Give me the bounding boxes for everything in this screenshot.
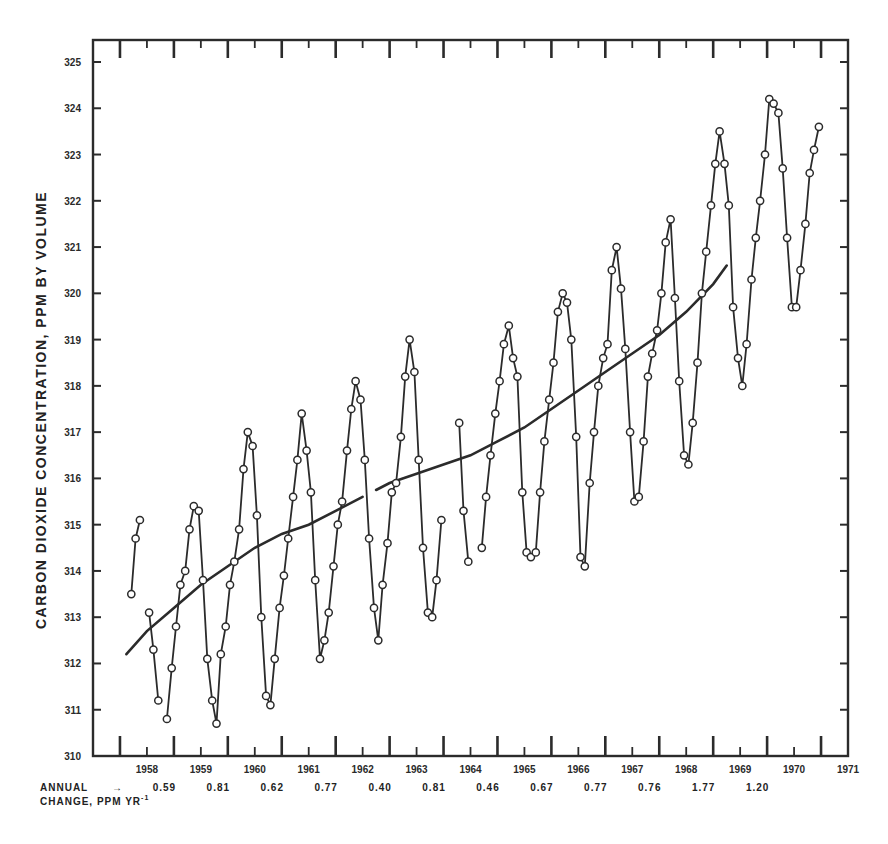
- data-point: [253, 512, 260, 519]
- data-point: [500, 341, 507, 348]
- x-tick-label: 1959: [190, 764, 213, 775]
- annual-change-value: 0.46: [476, 782, 499, 793]
- data-point: [217, 651, 224, 658]
- data-point: [703, 248, 710, 255]
- data-point: [604, 341, 611, 348]
- data-point: [716, 128, 723, 135]
- data-point: [640, 438, 647, 445]
- data-point: [613, 244, 620, 251]
- data-point: [433, 577, 440, 584]
- data-point: [330, 563, 337, 570]
- data-point: [532, 549, 539, 556]
- y-tick-label: 316: [64, 473, 81, 484]
- series-line-segment: [482, 99, 819, 566]
- data-point: [186, 526, 193, 533]
- data-point: [343, 447, 350, 454]
- data-point: [406, 336, 413, 343]
- data-point: [415, 456, 422, 463]
- annual-change-value: 1.77: [692, 782, 715, 793]
- x-tick-label: 1969: [729, 764, 752, 775]
- data-point: [654, 327, 661, 334]
- data-point: [492, 410, 499, 417]
- data-point: [298, 410, 305, 417]
- data-point: [280, 572, 287, 579]
- x-tick-label: 1961: [298, 764, 321, 775]
- x-tick-label: 1962: [352, 764, 375, 775]
- data-point: [411, 368, 418, 375]
- annual-change-arrow-icon: →: [112, 782, 123, 793]
- data-point: [155, 697, 162, 704]
- data-point: [199, 577, 206, 584]
- y-tick-label: 320: [64, 288, 81, 299]
- data-point: [559, 290, 566, 297]
- annual-change-value: 0.62: [261, 782, 284, 793]
- annual-change-row: ANNUAL CHANGE, PPM YR-1 → 0.590.810.620.…: [40, 782, 769, 807]
- annual-change-value: 0.81: [422, 782, 445, 793]
- x-tick-label: 1967: [621, 764, 644, 775]
- data-point: [456, 419, 463, 426]
- data-point: [649, 350, 656, 357]
- data-point: [600, 355, 607, 362]
- annual-change-value: 1.20: [746, 782, 769, 793]
- data-point: [797, 267, 804, 274]
- data-point: [357, 396, 364, 403]
- series-line-segment: [167, 340, 442, 724]
- data-point: [209, 697, 216, 704]
- data-point: [541, 438, 548, 445]
- data-point: [509, 355, 516, 362]
- data-point: [325, 609, 332, 616]
- data-point: [577, 554, 584, 561]
- annual-change-value: 0.67: [530, 782, 553, 793]
- data-point: [375, 637, 382, 644]
- y-tick-label: 312: [64, 658, 81, 669]
- data-point: [339, 498, 346, 505]
- data-point: [384, 540, 391, 547]
- data-point: [388, 489, 395, 496]
- data-point: [146, 609, 153, 616]
- data-point: [793, 304, 800, 311]
- data-point: [581, 563, 588, 570]
- data-point: [226, 581, 233, 588]
- data-point: [222, 623, 229, 630]
- y-tick-label: 313: [64, 612, 81, 623]
- y-tick-label: 318: [64, 381, 81, 392]
- data-point: [258, 614, 265, 621]
- x-tick-label: 1968: [675, 764, 698, 775]
- data-point: [182, 567, 189, 574]
- data-point: [622, 345, 629, 352]
- x-tick-labels: 1958195919601961196219631964196519661967…: [136, 764, 860, 775]
- data-point: [267, 702, 274, 709]
- data-point: [438, 516, 445, 523]
- data-point: [734, 355, 741, 362]
- data-point: [128, 591, 135, 598]
- data-point: [132, 535, 139, 542]
- monthly-co2-series: [128, 95, 823, 727]
- data-point: [658, 290, 665, 297]
- data-point: [290, 493, 297, 500]
- y-tick-labels: 3103113123133143153163173183193203213223…: [64, 57, 81, 762]
- data-point: [707, 202, 714, 209]
- data-point: [667, 216, 674, 223]
- data-point: [689, 419, 696, 426]
- data-point: [748, 276, 755, 283]
- series-line-segment: [131, 520, 140, 594]
- data-point: [478, 544, 485, 551]
- y-tick-label: 310: [64, 751, 81, 762]
- data-point: [334, 521, 341, 528]
- x-tick-label: 1963: [405, 764, 428, 775]
- data-point: [352, 378, 359, 385]
- trend-line-segment: [126, 497, 362, 654]
- co2-concentration-chart: 3103113123133143153163173183193203213223…: [0, 0, 888, 844]
- data-point: [163, 715, 170, 722]
- data-point: [617, 285, 624, 292]
- data-point: [568, 336, 575, 343]
- series-line-segment: [459, 423, 468, 562]
- data-point: [743, 341, 750, 348]
- data-point: [393, 479, 400, 486]
- data-point: [627, 429, 634, 436]
- data-point: [168, 665, 175, 672]
- data-point: [244, 429, 251, 436]
- data-point: [240, 466, 247, 473]
- data-point: [784, 234, 791, 241]
- y-tick-label: 324: [64, 103, 81, 114]
